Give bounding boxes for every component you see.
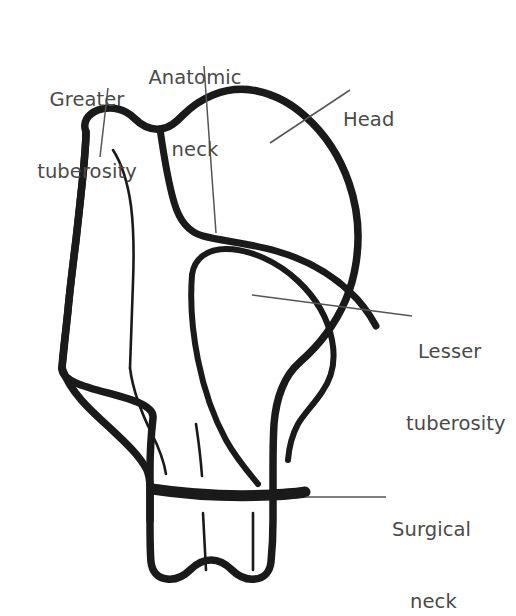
label-surgical-neck-line2: neck	[410, 590, 502, 614]
label-anatomic-neck: Anatomic neck	[134, 18, 256, 186]
label-anatomic-neck-line1: Anatomic	[134, 66, 256, 90]
label-surgical-neck-line1: Surgical	[392, 518, 502, 542]
label-greater-tuberosity: Greater tuberosity	[22, 40, 152, 208]
label-head-line1: Head	[343, 108, 433, 132]
label-greater-tuberosity-line1: Greater	[22, 88, 152, 112]
label-greater-tuberosity-line2: tuberosity	[22, 160, 152, 184]
label-lesser-tuberosity-line1: Lesser	[418, 340, 516, 364]
label-lesser-tuberosity: Lesser tuberosity	[418, 292, 516, 460]
label-anatomic-neck-line2: neck	[134, 138, 256, 162]
label-head: Head	[343, 60, 433, 156]
label-lesser-tuberosity-line2: tuberosity	[406, 412, 516, 436]
label-surgical-neck: Surgical neck	[392, 470, 502, 616]
